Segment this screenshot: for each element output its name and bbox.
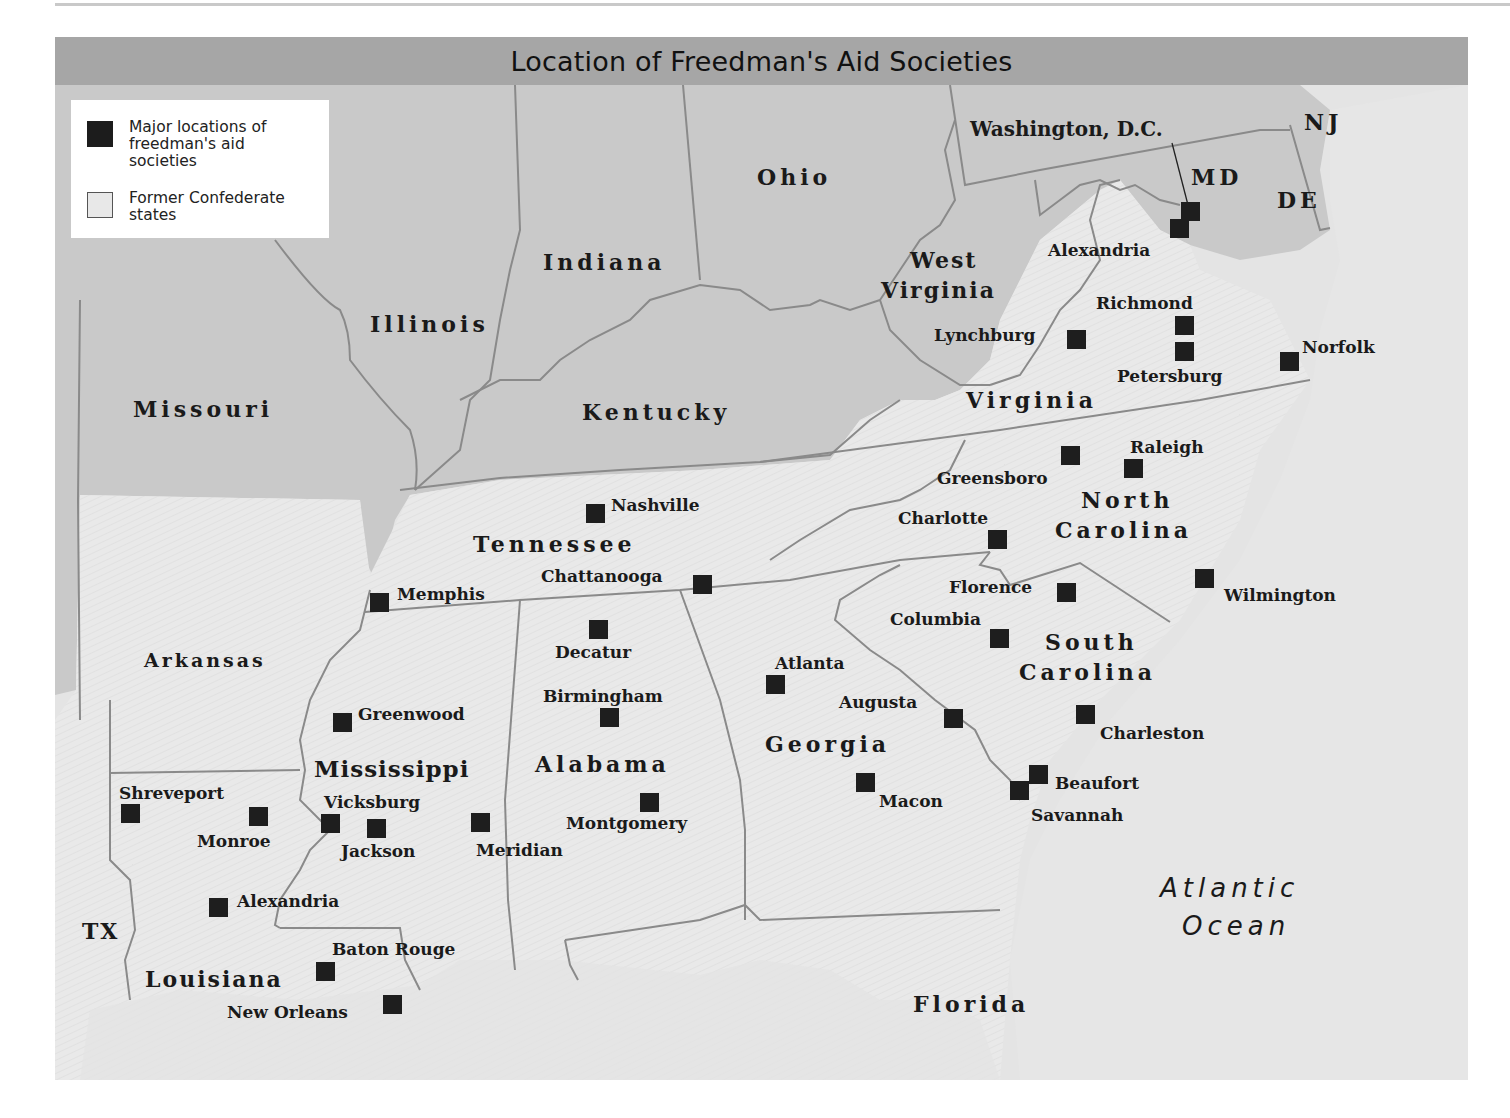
city-label-norfolk: Norfolk: [1302, 337, 1375, 357]
water-label-atlantic-line2: Ocean: [1182, 907, 1290, 945]
marker-greenwood: [333, 713, 352, 732]
state-label-florida: Florida: [913, 991, 1029, 1017]
legend-label: Former Confederate states: [129, 190, 314, 224]
city-label-shreveport: Shreveport: [119, 783, 224, 803]
state-label-alabama: Alabama: [535, 751, 670, 777]
marker-atlanta: [766, 675, 785, 694]
city-label-new-orleans: New Orleans: [227, 1002, 348, 1022]
city-label-augusta: Augusta: [839, 692, 917, 712]
marker-chattanooga: [693, 575, 712, 594]
dark-square-icon: [87, 121, 113, 147]
marker-alexandria-la: [209, 898, 228, 917]
city-label-columbia: Columbia: [890, 609, 981, 629]
city-label-alexandria-la: Alexandria: [237, 891, 339, 911]
marker-vicksburg: [321, 814, 340, 833]
marker-meridian: [471, 813, 490, 832]
marker-raleigh: [1124, 459, 1143, 478]
page-header-rule: [55, 3, 1510, 6]
marker-beaufort: [1029, 765, 1048, 784]
city-label-petersburg: Petersburg: [1117, 366, 1222, 386]
marker-macon: [856, 773, 875, 792]
city-label-atlanta: Atlanta: [775, 653, 844, 673]
state-label-missouri: Missouri: [133, 396, 273, 422]
water-label-atlantic-line1: Atlantic: [1160, 869, 1299, 907]
marker-new-orleans: [383, 995, 402, 1014]
state-label-georgia: Georgia: [765, 731, 890, 757]
city-label-macon: Macon: [879, 791, 943, 811]
marker-savannah: [1010, 781, 1029, 800]
map-legend: Major locations of freedman's aid societ…: [71, 100, 329, 238]
city-label-raleigh: Raleigh: [1130, 437, 1204, 457]
city-label-monroe: Monroe: [197, 831, 271, 851]
city-label-charleston: Charleston: [1100, 723, 1204, 743]
state-label-west-virginia-line2: Virginia: [881, 277, 996, 303]
state-label-virginia: Virginia: [966, 387, 1097, 413]
map-title: Location of Freedman's Aid Societies: [510, 46, 1012, 77]
city-label-jackson: Jackson: [341, 841, 415, 861]
marker-baton-rouge: [316, 962, 335, 981]
marker-jackson: [367, 819, 386, 838]
city-label-memphis: Memphis: [397, 584, 485, 604]
marker-augusta: [944, 709, 963, 728]
city-label-birmingham: Birmingham: [543, 686, 663, 706]
city-label-greenwood: Greenwood: [358, 704, 465, 724]
state-label-louisiana: Louisiana: [145, 966, 283, 992]
city-label-savannah: Savannah: [1031, 805, 1123, 825]
city-label-greensboro: Greensboro: [937, 468, 1048, 488]
city-label-wilmington: Wilmington: [1224, 585, 1336, 605]
city-label-charlotte: Charlotte: [898, 508, 988, 528]
city-label-montgomery: Montgomery: [566, 813, 687, 833]
marker-columbia: [990, 629, 1009, 648]
state-label-ohio: Ohio: [757, 164, 831, 190]
marker-wilmington: [1195, 569, 1214, 588]
marker-memphis: [370, 593, 389, 612]
state-label-south-carolina-line2: Carolina: [1019, 659, 1156, 685]
state-label-west-virginia-line1: West: [910, 247, 977, 273]
state-label-nj: NJ: [1304, 109, 1343, 135]
marker-norfolk: [1280, 352, 1299, 371]
city-label-lynchburg: Lynchburg: [934, 325, 1035, 345]
city-label-baton-rouge: Baton Rouge: [332, 939, 455, 959]
map-title-bar: Location of Freedman's Aid Societies: [55, 37, 1468, 85]
state-label-indiana: Indiana: [543, 249, 666, 275]
state-label-south-carolina-line1: South: [1045, 629, 1138, 655]
marker-decatur: [589, 620, 608, 639]
state-label-north-carolina-line2: Carolina: [1055, 517, 1192, 543]
marker-charleston: [1076, 705, 1095, 724]
legend-item-confederate-states: Former Confederate states: [87, 190, 314, 224]
marker-montgomery: [640, 793, 659, 812]
marker-alexandria-va: [1170, 219, 1189, 238]
light-square-icon: [87, 192, 113, 218]
legend-item-aid-societies: Major locations of freedman's aid societ…: [87, 119, 314, 170]
state-label-md: MD: [1191, 164, 1242, 190]
city-label-vicksburg: Vicksburg: [324, 792, 420, 812]
state-label-tx: TX: [82, 918, 119, 944]
marker-nashville: [586, 504, 605, 523]
marker-lynchburg: [1067, 330, 1086, 349]
marker-petersburg: [1175, 342, 1194, 361]
legend-label: Major locations of freedman's aid societ…: [129, 119, 314, 170]
marker-richmond: [1175, 316, 1194, 335]
city-label-richmond: Richmond: [1096, 293, 1193, 313]
marker-monroe: [249, 807, 268, 826]
state-label-de: DE: [1277, 187, 1321, 213]
state-label-illinois: Illinois: [370, 311, 489, 337]
state-label-tennessee: Tennessee: [473, 531, 636, 557]
city-label-decatur: Decatur: [555, 642, 631, 662]
city-label-nashville: Nashville: [611, 495, 700, 515]
city-label-meridian: Meridian: [476, 840, 563, 860]
city-label-washington-dc: Washington, D.C.: [970, 117, 1163, 141]
marker-charlotte: [988, 530, 1007, 549]
marker-birmingham: [600, 708, 619, 727]
city-label-florence: Florence: [949, 577, 1032, 597]
marker-greensboro: [1061, 446, 1080, 465]
state-label-mississippi: Mississippi: [314, 755, 469, 782]
city-label-chattanooga: Chattanooga: [541, 566, 663, 586]
city-label-beaufort: Beaufort: [1055, 773, 1139, 793]
marker-florence: [1057, 583, 1076, 602]
city-label-alexandria-va: Alexandria: [1048, 240, 1150, 260]
state-label-north-carolina-line1: North: [1081, 487, 1174, 513]
map-figure: Location of Freedman's Aid Societies Maj…: [55, 37, 1468, 1080]
marker-shreveport: [121, 804, 140, 823]
state-label-kentucky: Kentucky: [582, 399, 730, 425]
